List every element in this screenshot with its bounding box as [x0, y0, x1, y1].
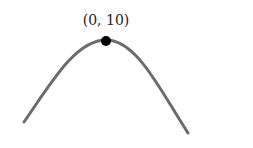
- vertex-point: [101, 36, 111, 46]
- curve: [24, 40, 188, 133]
- vertex-label: (0, 10): [83, 12, 130, 28]
